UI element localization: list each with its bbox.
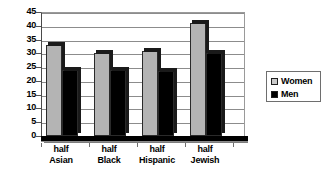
bar-men-3 <box>206 53 222 136</box>
x-tick-mark <box>41 143 42 147</box>
y-tick-mark <box>36 12 41 13</box>
bar-women-1 <box>94 53 110 136</box>
y-tick-mark <box>36 136 41 137</box>
bar-chart: 051015202530354045 halfAsianhalfBlackhal… <box>0 0 329 180</box>
bar-side-face <box>174 68 177 133</box>
x-axis-line <box>41 141 248 142</box>
bar-top-face <box>192 20 208 24</box>
bar-front-face <box>158 71 174 136</box>
legend-swatch-men-icon <box>271 91 278 98</box>
y-tick-label: 20 <box>2 76 36 85</box>
y-tick-label: 40 <box>2 21 36 30</box>
y-tick-mark <box>36 53 41 54</box>
bar-side-face <box>222 50 225 133</box>
legend-item-women: Women <box>271 75 320 87</box>
bar-women-0 <box>46 45 62 136</box>
x-tick-mark <box>137 143 138 147</box>
x-tick-mark <box>233 143 234 147</box>
bar-front-face <box>62 70 78 136</box>
bar-top-face <box>144 48 160 52</box>
y-tick-label: 25 <box>2 62 36 71</box>
legend-item-men: Men <box>271 88 320 100</box>
plot-area <box>41 12 245 136</box>
bar-top-face <box>160 68 176 72</box>
y-tick-label: 30 <box>2 48 36 57</box>
y-tick-label: 10 <box>2 103 36 112</box>
x-tick-mark <box>89 143 90 147</box>
legend-label-men: Men <box>281 90 298 99</box>
bar-top-face <box>208 50 224 54</box>
bar-front-face <box>206 53 222 136</box>
bar-front-face <box>46 45 62 136</box>
bar-men-0 <box>62 70 78 136</box>
legend-swatch-women-icon <box>271 78 278 85</box>
chart-legend: Women Men <box>266 71 321 102</box>
y-tick-mark <box>36 122 41 123</box>
bar-women-2 <box>142 51 158 136</box>
bar-women-3 <box>190 23 206 136</box>
bar-men-1 <box>110 70 126 136</box>
bar-top-face <box>112 67 128 71</box>
legend-label-women: Women <box>281 77 312 86</box>
bar-men-2 <box>158 71 174 136</box>
bar-front-face <box>110 70 126 136</box>
y-tick-label: 45 <box>2 7 36 16</box>
y-tick-mark <box>36 26 41 27</box>
bar-top-face <box>48 42 64 46</box>
y-tick-label: 5 <box>2 117 36 126</box>
x-axis-label-3: halfJewish <box>175 144 235 166</box>
bar-front-face <box>142 51 158 136</box>
bars-layer <box>42 13 244 136</box>
y-tick-label: 0 <box>2 131 36 140</box>
bar-top-face <box>64 67 80 71</box>
bar-front-face <box>190 23 206 136</box>
bar-top-face <box>96 50 112 54</box>
bar-side-face <box>126 67 129 133</box>
x-tick-mark <box>185 143 186 147</box>
y-tick-mark <box>36 108 41 109</box>
bar-front-face <box>94 53 110 136</box>
x-axis-labels: halfAsianhalfBlackhalfHispanichalfJewish <box>41 144 248 178</box>
y-tick-label: 15 <box>2 90 36 99</box>
y-tick-mark <box>36 95 41 96</box>
y-tick-mark <box>36 40 41 41</box>
y-tick-mark <box>36 81 41 82</box>
y-tick-label: 35 <box>2 35 36 44</box>
bar-side-face <box>78 67 81 133</box>
y-tick-mark <box>36 67 41 68</box>
